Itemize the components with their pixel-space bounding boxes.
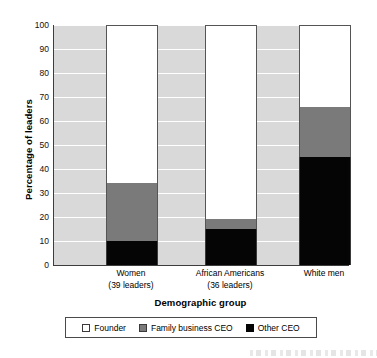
y-axis-tick-label: 90 — [40, 45, 49, 54]
bar-segment-other-ceo — [205, 229, 257, 265]
bar-segment-family-business-ceo — [205, 219, 257, 229]
x-axis-label-white-men: White men — [264, 268, 377, 280]
bar-segment-founder — [299, 25, 351, 107]
bar-segment-other-ceo — [106, 241, 158, 265]
category-count: (36 leaders) — [170, 280, 290, 292]
y-axis-tick-label: 100 — [35, 21, 49, 30]
y-axis-tick-label: 30 — [40, 189, 49, 198]
stacked-bar-chart: Percentage of leaders 010203040506070809… — [0, 0, 377, 358]
y-axis-tick-label: 20 — [40, 213, 49, 222]
bar-african-americans — [205, 25, 257, 265]
y-axis-tick-label: 50 — [40, 141, 49, 150]
bar-segment-founder — [205, 25, 257, 219]
bar-segment-other-ceo — [299, 157, 351, 265]
y-axis-tick-label: 10 — [40, 237, 49, 246]
page-edge-artifact — [250, 350, 377, 356]
y-axis-tick-label: 70 — [40, 93, 49, 102]
white-square-swatch-icon — [82, 324, 90, 332]
category-name: Women — [116, 268, 145, 278]
y-axis-tick-label: 40 — [40, 165, 49, 174]
legend-label: Family business CEO — [151, 323, 233, 333]
bar-segment-family-business-ceo — [299, 107, 351, 157]
legend-item-founder[interactable]: Founder — [82, 323, 126, 333]
legend-item-family-business-ceo[interactable]: Family business CEO — [139, 323, 233, 333]
bar-white-men — [299, 25, 351, 265]
y-axis-tick-label: 60 — [40, 117, 49, 126]
legend-label: Other CEO — [258, 323, 300, 333]
legend-label: Founder — [94, 323, 126, 333]
y-axis-title: Percentage of leaders — [23, 70, 34, 230]
bar-segment-family-business-ceo — [106, 183, 158, 241]
black-square-swatch-icon — [246, 324, 254, 332]
category-name: White men — [304, 268, 345, 278]
y-axis-tick-label: 80 — [40, 69, 49, 78]
plot-area: 0102030405060708090100 — [53, 25, 349, 266]
chart-legend: FounderFamily business CEOOther CEO — [65, 317, 317, 338]
legend-item-other-ceo[interactable]: Other CEO — [246, 323, 300, 333]
gray-square-swatch-icon — [139, 324, 147, 332]
bar-women — [106, 25, 158, 265]
y-axis-tick-label: 0 — [44, 261, 49, 270]
category-name: African Americans — [196, 268, 265, 278]
x-axis-title: Demographic group — [53, 297, 348, 308]
bar-segment-founder — [106, 25, 158, 183]
